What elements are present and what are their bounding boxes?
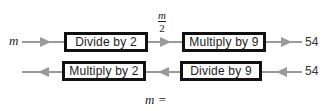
output-value-54: 54 bbox=[305, 35, 318, 49]
arrow-right-icon bbox=[40, 37, 51, 47]
arrow-left-icon bbox=[158, 67, 169, 77]
step-label: Multiply by 2 bbox=[69, 64, 138, 78]
reverse-input-value-54: 54 bbox=[305, 64, 318, 78]
arrow-left-icon bbox=[276, 67, 287, 77]
input-variable-m: m bbox=[9, 33, 18, 49]
arrow-right-icon bbox=[281, 37, 292, 47]
step-label: Multiply by 9 bbox=[189, 35, 258, 49]
fraction-numerator: m bbox=[158, 10, 166, 20]
step-label: Divide by 9 bbox=[190, 64, 252, 78]
arrow-right-icon bbox=[160, 37, 171, 47]
step-box-multiply-by-9: Multiply by 9 bbox=[182, 32, 266, 52]
step-box-divide-by-9: Divide by 9 bbox=[180, 61, 262, 81]
intermediate-fraction-m-over-2: m 2 bbox=[158, 10, 166, 33]
step-label: Divide by 2 bbox=[75, 35, 137, 49]
fraction-denominator: 2 bbox=[159, 23, 165, 33]
step-box-multiply-by-2: Multiply by 2 bbox=[62, 61, 146, 81]
step-box-divide-by-2: Divide by 2 bbox=[64, 32, 148, 52]
arrow-left-icon bbox=[38, 67, 49, 77]
answer-prompt: m = bbox=[145, 92, 166, 108]
